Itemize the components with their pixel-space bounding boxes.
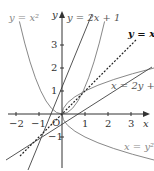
x-tick-neg1: −1 — [31, 118, 46, 129]
y-axis-arrow-icon — [59, 11, 65, 18]
label-x-eq-2y-plus-1: x = 2y + 1 — [111, 80, 154, 91]
x-tick-3: 3 — [128, 118, 134, 129]
y-tick-neg1: −1 — [48, 131, 63, 142]
y-tick-2: 2 — [51, 62, 57, 73]
line-y-eq-x — [20, 40, 136, 156]
graph: −2 −1 1 2 3 3 2 1 −1 O x y y = x² y = 2x… — [0, 0, 154, 171]
label-y-eq-2x-plus-1: y = 2x + 1 — [66, 12, 121, 23]
y-tick-3: 3 — [51, 39, 57, 50]
label-y-eq-x: y = x — [127, 28, 154, 39]
label-y-eq-x-squared: y = x² — [8, 12, 39, 23]
x-axis-arrow-icon — [143, 111, 150, 117]
y-axis-label: y — [51, 9, 58, 20]
y-tick-1: 1 — [51, 85, 57, 96]
x-tick-neg2: −2 — [9, 118, 24, 129]
x-tick-2: 2 — [105, 118, 111, 129]
x-tick-1: 1 — [82, 118, 88, 129]
origin-label: O — [52, 117, 60, 128]
label-x-eq-y-squared: x = y² — [124, 141, 154, 152]
x-axis-label: x — [143, 118, 149, 129]
